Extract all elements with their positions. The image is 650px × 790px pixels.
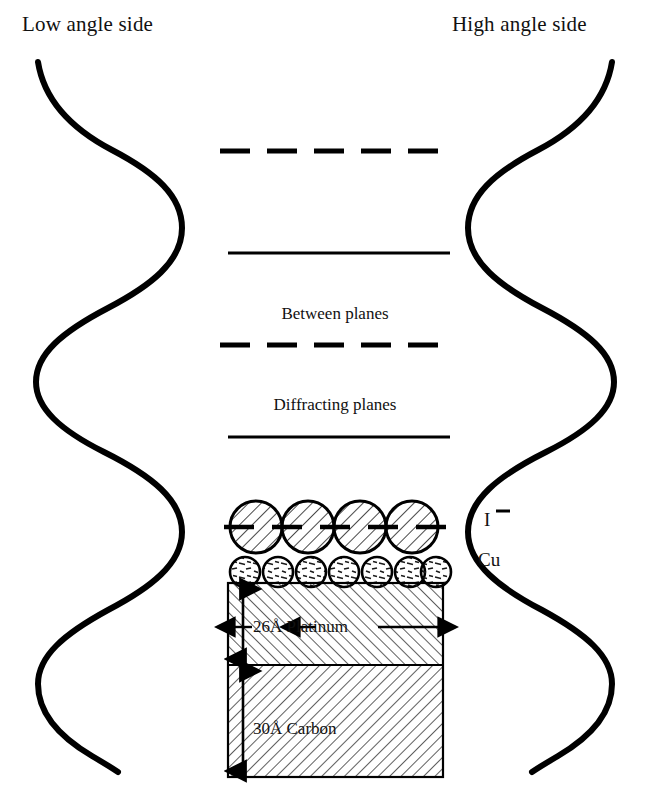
label-iodide: I: [484, 509, 490, 531]
header-low-angle: Low angle side: [22, 12, 153, 37]
label-copper: Cu: [478, 549, 500, 571]
label-carbon-layer: 30Å Carbon: [253, 719, 337, 739]
label-diffracting-planes: Diffracting planes: [205, 395, 465, 415]
substrate-block: [228, 583, 443, 777]
label-platinum-layer: 26Å Platinum: [253, 617, 348, 637]
high-angle-wave: [468, 62, 614, 772]
header-high-angle: High angle side: [452, 12, 587, 37]
diagram-canvas: Low angle side High angle side Between p…: [0, 0, 650, 790]
low-angle-wave: [36, 62, 182, 772]
label-between-planes: Between planes: [205, 304, 465, 324]
